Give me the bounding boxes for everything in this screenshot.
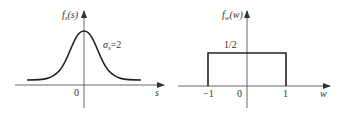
x-axis-label: s [155,87,159,98]
gaussian-plot: fs(s) σs=2 0 s [15,9,164,108]
y-axis-label: fw(w) [222,9,243,22]
x-axis-label: w [320,88,327,99]
y-axis-label: fs(s) [62,9,79,22]
sigma-annotation: σs=2 [103,39,121,52]
x-tick-1: 1 [283,88,288,99]
height-annotation: 1/2 [224,39,237,50]
uniform-plot: fw(w) 1/2 −1 0 1 w [178,9,330,108]
figure: fs(s) σs=2 0 s fw(w) 1/2 −1 0 1 w [0,0,337,116]
x-tick-0: 0 [74,87,79,98]
x-tick-0: 0 [237,88,242,99]
x-tick-neg1: −1 [203,88,214,99]
